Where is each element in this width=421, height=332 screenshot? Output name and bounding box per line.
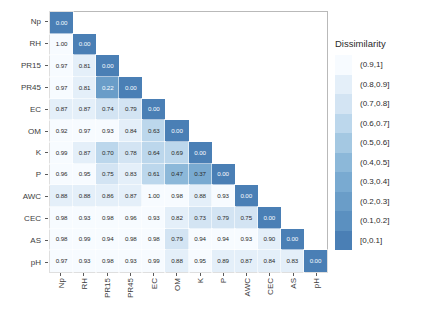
heatmap-cell[interactable]: 0.81 [73, 77, 96, 99]
heatmap-cell[interactable]: 0.79 [212, 207, 235, 229]
heatmap-cell[interactable]: 0.00 [165, 120, 188, 142]
heatmap-cell[interactable]: 0.92 [50, 120, 73, 142]
heatmap-cell-empty [119, 12, 142, 34]
heatmap-cell[interactable]: 0.00 [258, 207, 281, 229]
legend-item[interactable]: (0.6,0.7] [335, 114, 421, 134]
heatmap-cell[interactable]: 1.00 [142, 185, 165, 207]
heatmap-cell-empty [165, 77, 188, 99]
heatmap-cell[interactable]: 0.63 [142, 120, 165, 142]
heatmap-cell[interactable]: 0.98 [142, 229, 165, 251]
heatmap-cell-value: 0.93 [217, 193, 229, 199]
heatmap-cell[interactable]: 0.00 [119, 77, 142, 99]
heatmap-cell[interactable]: 0.86 [96, 185, 119, 207]
heatmap-cell[interactable]: 0.87 [235, 250, 258, 272]
heatmap-cell-empty [281, 12, 304, 34]
heatmap-cell[interactable]: 0.00 [189, 142, 212, 164]
legend-item[interactable]: (0.7,0.8] [335, 94, 421, 114]
heatmap-cell[interactable]: 0.00 [304, 250, 327, 272]
legend-item[interactable]: (0.8,0.9] [335, 75, 421, 95]
heatmap-cell[interactable]: 0.37 [189, 164, 212, 186]
heatmap-cell[interactable]: 0.99 [142, 250, 165, 272]
heatmap-cell[interactable]: 0.88 [189, 185, 212, 207]
heatmap-cell[interactable]: 0.96 [50, 164, 73, 186]
heatmap-cell[interactable]: 0.75 [235, 207, 258, 229]
heatmap-cell[interactable]: 0.93 [142, 207, 165, 229]
heatmap-figure: NpRHPR15PR45ECOMKPAWCCECASpH 0.001.000.0… [0, 0, 421, 332]
x-axis-label: K [196, 278, 205, 283]
heatmap-cell[interactable]: 0.94 [96, 229, 119, 251]
heatmap-cell[interactable]: 0.93 [73, 250, 96, 272]
heatmap-cell[interactable]: 1.00 [50, 34, 73, 56]
heatmap-cell[interactable]: 0.79 [165, 229, 188, 251]
heatmap-cell[interactable]: 0.84 [258, 250, 281, 272]
heatmap-cell[interactable]: 0.98 [50, 207, 73, 229]
heatmap-cell[interactable]: 0.99 [50, 142, 73, 164]
heatmap-cell[interactable]: 0.97 [50, 77, 73, 99]
x-axis-tick [258, 273, 281, 277]
heatmap-cell[interactable]: 0.93 [212, 185, 235, 207]
heatmap-cell-value: 0.75 [102, 171, 114, 177]
heatmap-cell-value: 0.00 [171, 128, 183, 134]
heatmap-cell[interactable]: 0.89 [212, 250, 235, 272]
heatmap-cell[interactable]: 0.93 [235, 229, 258, 251]
heatmap-cell[interactable]: 0.96 [119, 207, 142, 229]
heatmap-cell[interactable]: 0.87 [73, 142, 96, 164]
heatmap-cell[interactable]: 0.97 [73, 120, 96, 142]
heatmap-cell[interactable]: 0.94 [189, 229, 212, 251]
heatmap-cell[interactable]: 0.98 [96, 207, 119, 229]
heatmap-cell[interactable]: 0.81 [73, 55, 96, 77]
legend-item[interactable]: (0.4,0.5] [335, 153, 421, 173]
heatmap-cell[interactable]: 0.78 [119, 142, 142, 164]
heatmap-cell[interactable]: 0.74 [96, 99, 119, 121]
heatmap-cell[interactable]: 0.93 [73, 207, 96, 229]
heatmap-cell[interactable]: 0.61 [142, 164, 165, 186]
heatmap-cell[interactable]: 0.00 [235, 185, 258, 207]
heatmap-cell[interactable]: 0.83 [119, 164, 142, 186]
heatmap-cell[interactable]: 0.82 [165, 207, 188, 229]
heatmap-cell[interactable]: 0.98 [50, 229, 73, 251]
heatmap-cell[interactable]: 0.47 [165, 164, 188, 186]
heatmap-cell[interactable]: 0.00 [50, 12, 73, 34]
heatmap-cell[interactable]: 0.00 [142, 99, 165, 121]
heatmap-cell[interactable]: 0.95 [73, 164, 96, 186]
heatmap-cell[interactable]: 0.88 [73, 185, 96, 207]
heatmap-cell[interactable]: 0.87 [119, 185, 142, 207]
legend-item[interactable]: (0.5,0.6] [335, 133, 421, 153]
heatmap-cell-value: 0.00 [56, 20, 68, 26]
heatmap-cell[interactable]: 0.87 [50, 99, 73, 121]
heatmap-cell[interactable]: 0.87 [73, 99, 96, 121]
legend-item[interactable]: (0.3,0.4] [335, 172, 421, 192]
heatmap-cell[interactable]: 0.79 [119, 99, 142, 121]
heatmap-cell[interactable]: 0.83 [281, 250, 304, 272]
heatmap-cell[interactable]: 0.75 [96, 164, 119, 186]
heatmap-cell[interactable]: 0.97 [50, 250, 73, 272]
heatmap-cell[interactable]: 0.00 [73, 34, 96, 56]
heatmap-cell[interactable]: 0.97 [50, 55, 73, 77]
heatmap-cell[interactable]: 0.98 [119, 229, 142, 251]
heatmap-cell[interactable]: 0.22 [96, 77, 119, 99]
heatmap-cell-value: 0.98 [102, 215, 114, 221]
heatmap-cell[interactable]: 0.00 [212, 164, 235, 186]
heatmap-cell[interactable]: 0.84 [119, 120, 142, 142]
heatmap-cell[interactable]: 0.73 [189, 207, 212, 229]
heatmap-cell[interactable]: 0.64 [142, 142, 165, 164]
heatmap-cell[interactable]: 0.93 [96, 120, 119, 142]
heatmap-cell[interactable]: 0.95 [189, 250, 212, 272]
legend-item[interactable]: (0.2,0.3] [335, 192, 421, 212]
legend-item[interactable]: (0.1,0.2] [335, 211, 421, 231]
heatmap-cell[interactable]: 0.88 [50, 185, 73, 207]
heatmap-cell[interactable]: 0.69 [165, 142, 188, 164]
legend-item[interactable]: [0,0.1] [335, 231, 421, 251]
heatmap-cell[interactable]: 0.98 [165, 185, 188, 207]
heatmap-cell[interactable]: 0.88 [165, 250, 188, 272]
heatmap-cell[interactable]: 0.90 [258, 229, 281, 251]
heatmap-cell[interactable]: 0.00 [281, 229, 304, 251]
legend-item[interactable]: (0.9,1] [335, 55, 421, 75]
heatmap-cell[interactable]: 0.98 [96, 250, 119, 272]
heatmap-cell[interactable]: 0.93 [119, 250, 142, 272]
heatmap-cell[interactable]: 0.70 [96, 142, 119, 164]
heatmap-cell[interactable]: 0.94 [212, 229, 235, 251]
heatmap-cell[interactable]: 0.00 [96, 55, 119, 77]
heatmap-cell[interactable]: 0.99 [73, 229, 96, 251]
heatmap-cell-empty [304, 55, 327, 77]
